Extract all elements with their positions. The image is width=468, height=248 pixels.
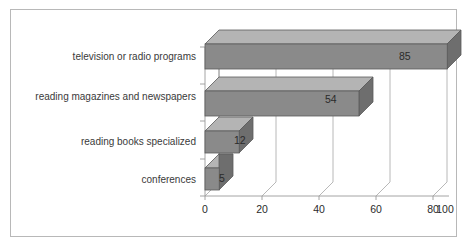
x-tick-label-100: 100 bbox=[425, 203, 465, 215]
category-label-reading-magazines-and-newspapers: reading magazines and newspapers bbox=[18, 91, 196, 103]
category-label-television-or-radio-programs: television or radio programs bbox=[18, 51, 196, 63]
bar-top-face bbox=[205, 30, 461, 44]
bar-top-face bbox=[205, 77, 373, 91]
category-label-conferences: conferences bbox=[18, 174, 196, 186]
value-label-reading-magazines-and-newspapers: 54 bbox=[325, 93, 337, 105]
chart-plot-area bbox=[0, 0, 468, 248]
bar-reading-magazines-and-newspapers[interactable] bbox=[205, 77, 373, 116]
value-label-television-or-radio-programs: 85 bbox=[399, 50, 411, 62]
category-label-reading-books-specialized: reading books specialized bbox=[18, 136, 196, 148]
value-label-conferences: 5 bbox=[219, 172, 225, 184]
value-label-reading-books-specialized: 12 bbox=[234, 134, 246, 146]
x-axis-ticks bbox=[205, 196, 433, 200]
x-tick-label-0: 0 bbox=[193, 203, 217, 215]
x-tick-label-40: 40 bbox=[307, 203, 331, 215]
bar-front-face bbox=[205, 168, 219, 190]
bar-television-or-radio-programs[interactable] bbox=[205, 30, 461, 69]
x-tick-label-60: 60 bbox=[364, 203, 388, 215]
y-axis-ticks bbox=[200, 47, 205, 196]
bar-chart: television or radio programs reading mag… bbox=[0, 0, 468, 248]
x-tick-label-20: 20 bbox=[250, 203, 274, 215]
